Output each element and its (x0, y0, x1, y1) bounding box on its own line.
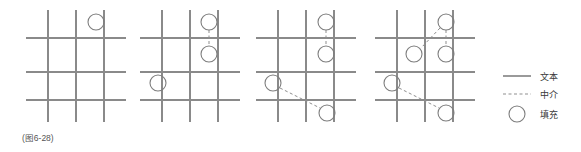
token-circle (406, 46, 422, 62)
tokens-panel-2 (150, 14, 217, 91)
token-circle (318, 14, 334, 30)
token-circle (438, 14, 454, 30)
token-circle (319, 105, 335, 121)
legend-item-solid-line: 文本 (503, 71, 558, 82)
figure-container: 文本 中介 填充 (图6-28) (0, 0, 581, 152)
figure-caption: (图6-28) (22, 133, 54, 143)
tokens-panel-3 (265, 14, 335, 121)
tokens-panel-1 (88, 14, 104, 30)
token-circle (201, 14, 217, 30)
token-circle (438, 46, 454, 62)
tokens-panel-4 (384, 14, 454, 121)
token-circle (265, 75, 281, 91)
panel-step-1 (26, 10, 126, 122)
legend: 文本 中介 填充 (503, 71, 558, 123)
grid-lines-panel-2 (140, 10, 240, 122)
token-circle (88, 14, 104, 30)
links-panel-4 (399, 28, 446, 108)
token-circle (438, 105, 454, 121)
links-panel-3 (280, 30, 326, 108)
grid-lines-panel-3 (256, 10, 356, 122)
token-circle (150, 75, 166, 91)
circle-outline-icon (509, 106, 525, 122)
token-circle (318, 46, 334, 62)
panel-step-4 (375, 10, 475, 122)
panel-step-2 (140, 10, 240, 122)
mediator-link (280, 88, 320, 108)
legend-label: 文本 (540, 71, 558, 82)
legend-item-circle: 填充 (509, 106, 558, 122)
token-circle (384, 75, 400, 91)
panel-step-3 (256, 10, 356, 122)
grid-lines-panel-1 (26, 10, 126, 122)
figure-canvas: 文本 中介 填充 (图6-28) (0, 0, 581, 152)
legend-label: 中介 (540, 89, 558, 100)
grid-lines-panel-4 (375, 10, 475, 122)
token-circle (201, 46, 217, 62)
legend-label: 填充 (540, 109, 558, 120)
mediator-link (399, 88, 439, 108)
legend-item-dashed-line: 中介 (503, 89, 558, 100)
